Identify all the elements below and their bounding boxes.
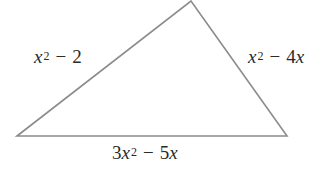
right-side-label: x2−4x [248, 47, 304, 66]
bottom-coef: 3 [112, 142, 122, 163]
right-var: x [248, 46, 256, 67]
bottom-rest-var: x [169, 142, 177, 163]
right-rest-var: x [296, 46, 304, 67]
left-exponent: 2 [43, 49, 49, 63]
right-exponent: 2 [257, 49, 263, 63]
left-side-label: x2−2 [34, 47, 82, 66]
bottom-constant: 5 [160, 142, 170, 163]
left-var: x [34, 46, 42, 67]
bottom-var: x [122, 142, 130, 163]
left-constant: 2 [72, 46, 82, 67]
left-operator: − [55, 46, 66, 67]
bottom-side-label: 3x2−5x [112, 143, 178, 162]
bottom-exponent: 2 [131, 145, 137, 159]
triangle-figure: x2−2 x2−4x 3x2−5x [0, 0, 336, 174]
right-operator: − [269, 46, 280, 67]
right-constant: 4 [286, 46, 296, 67]
bottom-operator: − [143, 142, 154, 163]
